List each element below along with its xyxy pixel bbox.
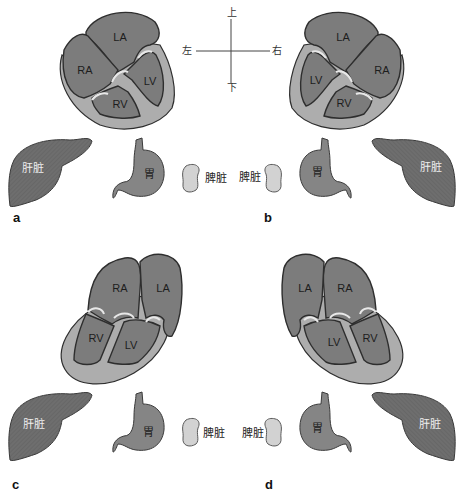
orientation-compass xyxy=(196,19,270,83)
panel-d-liver-label: 肝脏 xyxy=(419,419,441,430)
panel-d-liver xyxy=(372,392,455,460)
panel-b-stomach xyxy=(300,138,351,198)
panel-d-spleen-label: 脾脏 xyxy=(242,428,264,439)
diagram-artwork xyxy=(0,0,464,502)
panel-c-stomach xyxy=(113,392,164,452)
compass-right-label: 右 xyxy=(272,46,282,56)
compass-down-label: 下 xyxy=(227,83,237,93)
panel-c-spleen xyxy=(183,418,199,446)
panel-b-letter: b xyxy=(264,211,272,224)
panel-d-stomach-label: 胃 xyxy=(312,423,323,434)
panel-d-la-label: LA xyxy=(298,283,311,294)
panel-b-la-label: LA xyxy=(336,32,349,43)
panel-a-stomach-label: 胃 xyxy=(144,169,155,180)
panel-b-lv-label: LV xyxy=(310,75,323,86)
compass-left-label: 左 xyxy=(182,46,192,56)
panel-a-spleen-label: 脾脏 xyxy=(205,173,227,184)
panel-b-stomach-label: 胃 xyxy=(312,167,323,178)
panel-c-spleen-label: 脾脏 xyxy=(203,428,225,439)
panel-c-stomach-label: 胃 xyxy=(143,427,154,438)
panel-d-spleen xyxy=(265,418,281,446)
panel-a-ra-label: RA xyxy=(77,65,92,76)
panel-c-letter: c xyxy=(12,478,19,491)
panel-c-heart xyxy=(46,254,184,402)
panel-d-stomach xyxy=(300,392,351,452)
panel-b-ra-label: RA xyxy=(374,65,389,76)
panel-d-heart xyxy=(280,254,418,402)
panel-d-rv-label: RV xyxy=(362,333,377,344)
panel-d-ra-label: RA xyxy=(337,283,352,294)
compass-up-label: 上 xyxy=(227,8,237,18)
situs-diagram: 上 下 左 右 LA RA LV RV 肝脏 胃 脾脏 a LA RA LV R… xyxy=(0,0,464,502)
panel-a-liver-label: 肝脏 xyxy=(22,163,44,174)
panel-a-letter: a xyxy=(13,211,20,224)
panel-a-rv-label: RV xyxy=(112,99,127,110)
panel-c-rv-label: RV xyxy=(88,333,103,344)
panel-c-liver-label: 肝脏 xyxy=(23,419,45,430)
panel-b-spleen-label: 脾脏 xyxy=(239,172,261,183)
panel-a-stomach xyxy=(113,138,164,198)
panel-b-liver xyxy=(372,138,455,206)
panel-c-lv-label: LV xyxy=(125,340,138,351)
panel-a-la-label: LA xyxy=(113,32,126,43)
panel-d-letter: d xyxy=(265,478,273,491)
panel-b-spleen xyxy=(265,164,281,192)
panel-c-ra-label: RA xyxy=(112,283,127,294)
panel-a-lv-label: LV xyxy=(144,76,157,87)
panel-d-lv-label: LV xyxy=(328,337,341,348)
panel-c-liver xyxy=(9,392,92,460)
panel-a-spleen xyxy=(183,164,199,192)
panel-c-la-label: LA xyxy=(156,283,169,294)
panel-b-rv-label: RV xyxy=(336,98,351,109)
panel-b-liver-label: 肝脏 xyxy=(420,162,442,173)
